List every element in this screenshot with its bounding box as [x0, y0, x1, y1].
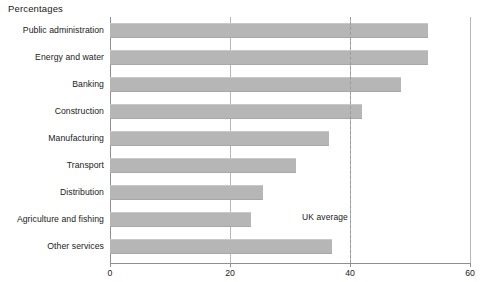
bar-band [110, 17, 470, 44]
bars-layer [110, 17, 470, 263]
y-axis-label-transport: Transport [0, 152, 104, 179]
bar-transport [110, 158, 296, 173]
bar-band [110, 71, 470, 98]
x-axis-line [110, 263, 471, 264]
bar-band [110, 125, 470, 152]
x-tick-label-20: 20 [225, 268, 235, 278]
bar-manufacturing [110, 131, 329, 146]
bar-public-administration [110, 23, 428, 38]
bar-banking [110, 77, 401, 92]
gridline-60 [470, 17, 471, 263]
uk-average-label: UK average [302, 212, 346, 222]
y-axis-label-other-services: Other services [0, 233, 104, 260]
chart-title: Percentages [8, 3, 63, 14]
x-tick-label-60: 60 [465, 268, 475, 278]
bar-band [110, 206, 470, 233]
uk-average-line [350, 17, 351, 263]
plot-area: UK average [110, 17, 470, 263]
x-tick-label-40: 40 [345, 268, 355, 278]
y-axis-label-distribution: Distribution [0, 179, 104, 206]
bar-band [110, 179, 470, 206]
bar-band [110, 152, 470, 179]
y-axis-label-construction: Construction [0, 98, 104, 125]
bar-construction [110, 104, 362, 119]
bar-chart: Percentages Public administrationEnergy … [0, 0, 490, 282]
y-axis-label-banking: Banking [0, 71, 104, 98]
x-tick-0 [110, 263, 111, 267]
y-axis-label-agriculture-and-fishing: Agriculture and fishing [0, 206, 104, 233]
y-axis-label-manufacturing: Manufacturing [0, 125, 104, 152]
bar-band [110, 233, 470, 260]
x-tick-label-0: 0 [108, 268, 113, 278]
x-tick-40 [350, 263, 351, 267]
bar-band [110, 44, 470, 71]
x-tick-60 [470, 263, 471, 267]
x-tick-20 [230, 263, 231, 267]
bar-other-services [110, 239, 332, 254]
y-axis-label-public-administration: Public administration [0, 17, 104, 44]
y-axis-label-energy-and-water: Energy and water [0, 44, 104, 71]
bar-distribution [110, 185, 263, 200]
bar-agriculture-and-fishing [110, 212, 251, 227]
bar-band [110, 98, 470, 125]
bar-energy-and-water [110, 50, 428, 65]
